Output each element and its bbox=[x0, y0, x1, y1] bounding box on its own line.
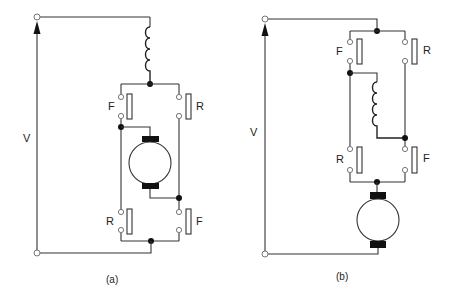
armature-motor-icon bbox=[268, 182, 399, 254]
panel-a: V F R bbox=[23, 14, 204, 285]
caption-a: (a) bbox=[106, 274, 118, 285]
svg-text:R: R bbox=[423, 44, 431, 56]
svg-text:R: R bbox=[106, 215, 114, 227]
arrow-up-icon bbox=[262, 23, 269, 36]
supply-terminal-bottom-b bbox=[262, 251, 268, 257]
top-wire-b bbox=[268, 19, 377, 31]
svg-text:F: F bbox=[108, 100, 115, 112]
voltage-label-b: V bbox=[250, 126, 258, 138]
armature-motor-icon bbox=[121, 127, 179, 198]
field-coil-icon bbox=[146, 27, 151, 84]
svg-text:R: R bbox=[196, 100, 204, 112]
supply-terminal-top-a bbox=[34, 14, 40, 20]
caption-b: (b) bbox=[336, 271, 348, 282]
contact-R-lower-b: R bbox=[336, 146, 362, 173]
panel-b: V F R bbox=[250, 16, 431, 282]
wire-b bbox=[350, 73, 377, 82]
supply-terminal-bottom-a bbox=[34, 250, 40, 256]
svg-text:R: R bbox=[336, 153, 344, 165]
contact-R-upper-b: R bbox=[402, 39, 431, 64]
arrow-up-icon bbox=[34, 21, 41, 34]
contact-F-lower-a: F bbox=[176, 209, 203, 234]
contact-F-upper-a: F bbox=[108, 94, 132, 119]
junction-dot bbox=[176, 195, 182, 201]
supply-terminal-top-b bbox=[262, 16, 268, 22]
field-coil-icon bbox=[373, 82, 406, 138]
contact-R-upper-a: R bbox=[176, 94, 204, 119]
svg-text:F: F bbox=[196, 215, 203, 227]
return-wire-a bbox=[40, 241, 151, 253]
svg-text:F: F bbox=[423, 152, 430, 164]
reversing-circuit-diagram: V F R bbox=[0, 0, 456, 293]
junction-dot bbox=[402, 135, 408, 141]
contact-R-lower-a: R bbox=[106, 209, 132, 234]
svg-text:F: F bbox=[336, 45, 343, 57]
contact-F-lower-b: F bbox=[402, 146, 430, 173]
contact-F-upper-b: F bbox=[336, 39, 362, 64]
voltage-label-a: V bbox=[23, 132, 31, 144]
